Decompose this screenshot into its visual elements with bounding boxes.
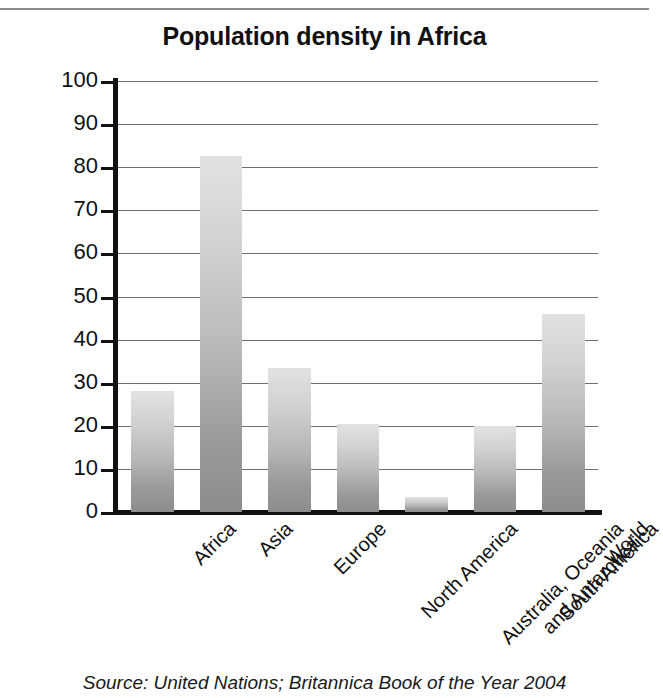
bar-europe[interactable] <box>268 368 311 512</box>
bar-north-america[interactable] <box>337 424 380 512</box>
y-tick-20 <box>101 426 114 429</box>
bar-world[interactable] <box>542 314 585 512</box>
gridline-100 <box>118 81 598 82</box>
y-tick-80 <box>101 167 114 170</box>
plot-area <box>118 81 598 512</box>
y-tick-label-0: 0 <box>38 498 98 524</box>
gridline-30 <box>118 383 598 384</box>
y-tick-100 <box>101 81 114 84</box>
y-tick-label-20: 20 <box>38 412 98 438</box>
x-axis-label-europe: Europe <box>330 518 391 579</box>
bar-south-america[interactable] <box>474 426 517 512</box>
y-tick-label-90: 90 <box>38 110 98 136</box>
bar-asia[interactable] <box>200 156 243 512</box>
y-tick-label-30: 30 <box>38 369 98 395</box>
gridline-70 <box>118 210 598 211</box>
y-tick-10 <box>101 469 114 472</box>
x-axis-label-asia: Asia <box>254 518 297 561</box>
gridline-40 <box>118 340 598 341</box>
x-axis-label-north-america: North America <box>417 518 522 623</box>
y-tick-70 <box>101 210 114 213</box>
y-tick-50 <box>101 297 114 300</box>
gridline-90 <box>118 124 598 125</box>
y-tick-90 <box>101 124 114 127</box>
y-tick-label-40: 40 <box>38 326 98 352</box>
source-note: Source: United Nations; Britannica Book … <box>0 672 649 694</box>
y-tick-40 <box>101 340 114 343</box>
y-tick-label-80: 80 <box>38 153 98 179</box>
gridline-60 <box>118 253 598 254</box>
x-axis-label-africa: Africa <box>189 518 240 569</box>
y-tick-label-70: 70 <box>38 196 98 222</box>
y-tick-label-50: 50 <box>38 283 98 309</box>
x-axis-label-line1: Africa <box>189 518 240 569</box>
bar-australia-oceania[interactable] <box>405 497 448 512</box>
bar-africa[interactable] <box>131 391 174 512</box>
y-tick-30 <box>101 383 114 386</box>
y-tick-0 <box>101 512 114 515</box>
top-divider-rule <box>0 8 649 10</box>
y-tick-label-10: 10 <box>38 455 98 481</box>
y-tick-label-100: 100 <box>38 67 98 93</box>
y-tick-label-60: 60 <box>38 239 98 265</box>
x-axis-label-line1: Europe <box>330 518 391 579</box>
chart-title: Population density in Africa <box>0 22 649 51</box>
gridline-50 <box>118 297 598 298</box>
gridline-80 <box>118 167 598 168</box>
y-tick-60 <box>101 253 114 256</box>
x-axis-label-line1: Asia <box>254 518 297 561</box>
x-axis-label-line1: North America <box>417 518 522 623</box>
